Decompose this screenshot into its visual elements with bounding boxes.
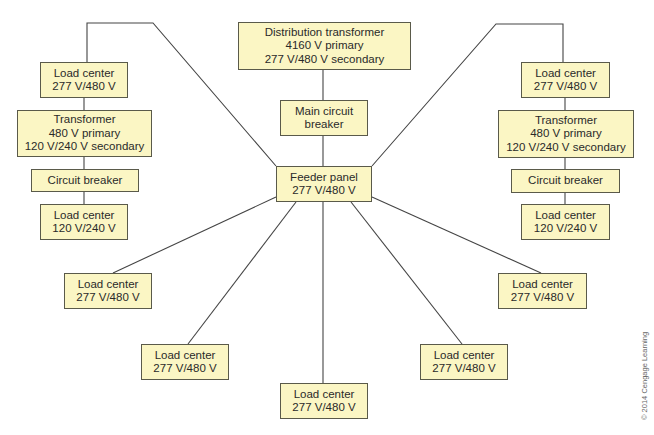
left-load-center-277-480-box: Load center 277 V/480 V	[40, 62, 128, 98]
radial-load-center-1: Load center 277 V/480 V	[64, 273, 152, 309]
box-title: Distribution transformer	[265, 26, 385, 40]
feeder-panel-box: Feeder panel 277 V/480 V	[276, 166, 372, 202]
radial-load-center-4: Load center 277 V/480 V	[420, 344, 508, 380]
box-title: Load center	[535, 67, 596, 81]
radial-load-center-5: Load center 277 V/480 V	[498, 273, 587, 309]
box-title: Feeder panel	[290, 171, 358, 185]
box-line: 120 V/240 V	[52, 222, 115, 236]
left-transformer-box: Transformer 480 V primary 120 V/240 V se…	[17, 110, 152, 157]
box-line: 277 V/480 V	[76, 291, 139, 305]
right-load-center-277-480-box: Load center 277 V/480 V	[521, 62, 610, 98]
box-line: 120 V/240 V secondary	[506, 141, 626, 155]
box-line: 277 V/480 V	[153, 362, 216, 376]
box-title: Transformer	[53, 113, 115, 127]
distribution-transformer-box: Distribution transformer 4160 V primary …	[238, 22, 411, 70]
box-line: 277 V/480 V secondary	[265, 53, 385, 67]
left-circuit-breaker-box: Circuit breaker	[31, 169, 139, 192]
box-title: Load center	[294, 388, 355, 402]
box-line: 120 V/240 V secondary	[25, 140, 145, 154]
right-load-center-120-240-box: Load center 120 V/240 V	[521, 204, 610, 240]
box-line: 277 V/480 V	[292, 401, 355, 415]
radial-load-center-2: Load center 277 V/480 V	[141, 344, 229, 380]
radial-load-center-3: Load center 277 V/480 V	[280, 383, 368, 419]
box-line: 277 V/480 V	[432, 362, 495, 376]
box-title: Load center	[155, 349, 216, 363]
box-line: 480 V primary	[530, 127, 602, 141]
box-title: Load center	[78, 278, 139, 292]
box-line: 120 V/240 V	[534, 222, 597, 236]
box-title: Load center	[54, 209, 115, 223]
box-title: Transformer	[535, 114, 597, 128]
copyright-notice: © 2014 Cengage Learning	[640, 332, 649, 420]
box-line: 4160 V primary	[286, 39, 364, 53]
right-circuit-breaker-box: Circuit breaker	[511, 169, 620, 193]
box-title: Circuit breaker	[48, 174, 123, 188]
box-title: Circuit breaker	[528, 174, 603, 188]
box-line: 277 V/480 V	[534, 80, 597, 94]
box-line: 277 V/480 V	[292, 184, 355, 198]
box-line: 277 V/480 V	[52, 80, 115, 94]
box-title: Load center	[54, 67, 115, 81]
box-line: 480 V primary	[49, 127, 121, 141]
right-transformer-box: Transformer 480 V primary 120 V/240 V se…	[498, 110, 634, 158]
main-circuit-breaker-box: Main circuit breaker	[280, 100, 368, 136]
box-title: Load center	[512, 278, 573, 292]
left-load-center-120-240-box: Load center 120 V/240 V	[40, 204, 128, 240]
box-title: Load center	[535, 209, 596, 223]
box-title: Load center	[434, 349, 495, 363]
box-line: breaker	[305, 118, 344, 132]
box-line: 277 V/480 V	[511, 291, 574, 305]
box-title: Main circuit	[295, 105, 353, 119]
